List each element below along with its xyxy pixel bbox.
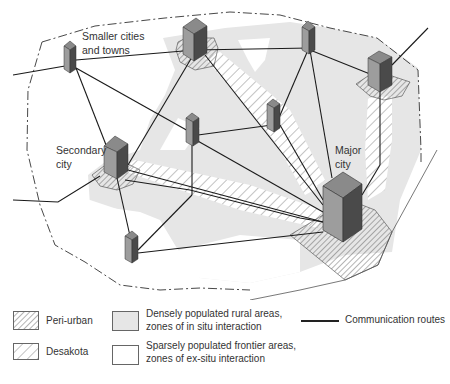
city-block-b <box>183 18 207 61</box>
town-block-f <box>186 113 199 146</box>
urban-network-diagram: Smaller cities and towns Secondary city … <box>0 0 450 300</box>
legend-sparse-line1: Sparsely populated frontier areas, <box>146 340 296 352</box>
town-block-h <box>125 231 138 263</box>
town-block-e <box>267 99 280 132</box>
legend-swatch-dense-rural <box>112 311 139 331</box>
label-major: Major <box>335 144 362 156</box>
legend-sparse-line2: zones of ex-situ interaction <box>146 353 265 365</box>
label-secondary-city: city <box>56 158 73 170</box>
legend-route-line <box>301 320 339 322</box>
label-and-towns: and towns <box>82 44 130 56</box>
label-secondary: Secondary <box>56 144 107 156</box>
city-block-d <box>368 51 392 92</box>
legend-swatch-sparse-frontier <box>112 345 139 365</box>
legend-peri-urban: Peri-urban <box>46 315 93 327</box>
city-block-secondary <box>104 136 128 179</box>
legend-swatch-peri-urban <box>13 311 39 330</box>
town-block-c <box>302 21 315 54</box>
town-block-a <box>64 41 76 73</box>
legend-dense-line2: zones of in situ interaction <box>146 321 262 333</box>
city-block-major <box>323 172 362 242</box>
legend-swatch-desakota <box>13 343 39 360</box>
label-major-city: city <box>335 158 352 170</box>
label-smaller-cities: Smaller cities <box>82 30 144 42</box>
legend-desakota: Desakota <box>46 346 88 358</box>
legend-routes: Communication routes <box>345 314 445 326</box>
legend-dense-line1: Densely populated rural areas, <box>146 308 282 320</box>
